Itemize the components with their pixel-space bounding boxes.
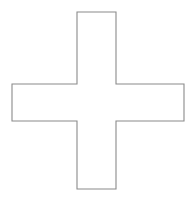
cross-shape-svg: [0, 0, 194, 202]
drawing-canvas: [0, 0, 194, 202]
